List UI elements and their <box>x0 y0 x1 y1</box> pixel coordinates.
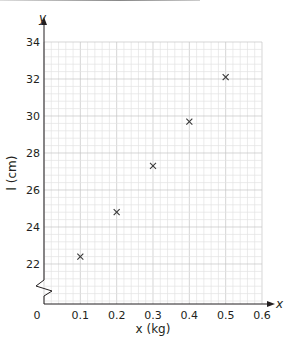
x-tick-label: 0.2 <box>108 309 126 322</box>
graph-paper-grid <box>44 42 262 304</box>
y-tick-label: 22 <box>26 258 40 271</box>
x-tick-label: 0 <box>34 309 41 322</box>
scatter-chart: 00.10.20.30.40.50.622242628303234 x (kg)… <box>0 0 288 346</box>
x-axis-letter: x <box>275 297 284 311</box>
y-axis-letter: y <box>38 11 47 25</box>
axes <box>36 17 275 307</box>
y-tick-label: 30 <box>26 110 40 123</box>
x-tick-label: 0.6 <box>253 309 271 322</box>
x-tick-label: 0.5 <box>217 309 235 322</box>
y-tick-label: 26 <box>26 184 40 197</box>
y-tick-label: 24 <box>26 221 40 234</box>
y-tick-label: 28 <box>26 147 40 160</box>
x-tick-label: 0.1 <box>72 309 90 322</box>
y-tick-label: 32 <box>26 73 40 86</box>
y-axis-label: l (cm) <box>5 156 19 191</box>
x-axis-label: x (kg) <box>136 322 171 336</box>
x-tick-label: 0.4 <box>181 309 199 322</box>
x-tick-label: 0.3 <box>144 309 162 322</box>
y-tick-label: 34 <box>26 36 40 49</box>
